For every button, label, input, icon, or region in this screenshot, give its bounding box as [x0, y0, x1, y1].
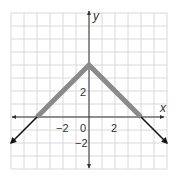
- x-axis-label: x: [159, 101, 167, 115]
- y-tick-2: 2: [80, 86, 86, 98]
- y-tick-neg2: −2: [75, 137, 88, 149]
- graph: x y −2 0 2 2 −2: [0, 0, 176, 178]
- x-tick-2: 2: [111, 122, 117, 134]
- x-tick-neg2: −2: [56, 122, 69, 134]
- origin-label: 0: [80, 122, 86, 134]
- y-axis-label: y: [92, 9, 100, 23]
